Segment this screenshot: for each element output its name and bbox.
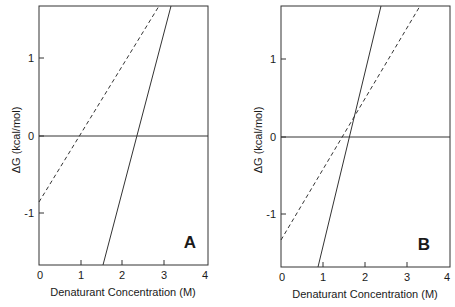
x-tick-label: 3 — [404, 271, 410, 283]
y-axis-title: ΔG (kcal/mol) — [10, 107, 22, 174]
x-tick-label: 1 — [320, 271, 326, 283]
x-tick-label: 0 — [279, 271, 285, 283]
x-tick-label: 4 — [444, 271, 450, 283]
x-tick-label: 2 — [119, 269, 125, 281]
x-axis-title: Denaturant Concentration (M) — [50, 286, 196, 298]
x-tick-label: 3 — [161, 269, 167, 281]
y-tick-label: 0 — [270, 131, 276, 143]
panel-a: 1 0 -1 0 1 2 3 4 Denaturant Concentratio… — [10, 6, 208, 298]
y-tick-label: 0 — [28, 130, 34, 142]
series-dashed — [39, 6, 159, 202]
x-tick-label: 2 — [362, 271, 368, 283]
y-axis-title: ΔG (kcal/mol) — [252, 107, 264, 174]
panel-letter: B — [418, 235, 430, 254]
panel-b: 1 0 -1 0 1 2 3 4 Denaturant Concentratio… — [252, 6, 450, 300]
panel-letter: A — [184, 233, 196, 252]
y-tick-label: 1 — [28, 52, 34, 64]
series-dashed — [281, 6, 420, 240]
figure: 1 0 -1 0 1 2 3 4 Denaturant Concentratio… — [0, 0, 455, 307]
x-tick-label: 4 — [202, 269, 208, 281]
x-axis-title: Denaturant Concentration (M) — [292, 288, 438, 300]
y-tick-label: 1 — [270, 53, 276, 65]
y-tick-label: -1 — [24, 207, 34, 219]
x-tick-label: 0 — [37, 269, 43, 281]
y-tick-label: -1 — [266, 208, 276, 220]
x-tick-label: 1 — [78, 269, 84, 281]
